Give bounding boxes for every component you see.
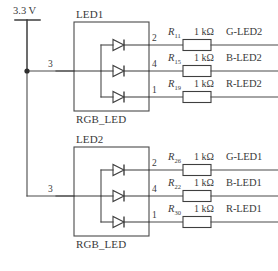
resistor-r15-subscript: 15 — [175, 58, 181, 65]
resistor-r26-value: 1 kΩ — [194, 152, 214, 162]
led1-pin-label-red: 1 — [152, 86, 157, 96]
led2-outline — [74, 147, 149, 236]
led1-device-label: RGB_LED — [76, 114, 126, 125]
resistor-r30-letter: R — [168, 203, 174, 214]
resistor-r26-label: R26 — [168, 152, 181, 163]
led1-outline — [74, 22, 149, 111]
led1-pin-label-green: 2 — [152, 34, 157, 44]
resistor-r11-value: 1 kΩ — [194, 27, 214, 37]
net-label-b-led2: B-LED2 — [226, 53, 262, 64]
resistor-r15-body — [183, 66, 211, 77]
resistor-r19-value: 1 kΩ — [194, 79, 214, 89]
led2-pin-label-blue: 4 — [152, 185, 157, 195]
resistor-r30-body — [183, 217, 211, 228]
schematic-canvas — [0, 0, 278, 271]
led2-common-pin-label: 3 — [48, 185, 53, 195]
led2-diode-green — [101, 165, 149, 176]
net-label-r-led2: R-LED2 — [226, 79, 262, 90]
resistor-r11-letter: R — [168, 26, 174, 37]
resistor-r15-label: R15 — [168, 53, 181, 64]
led1-resistors — [183, 40, 278, 103]
resistor-r30-label: R30 — [168, 204, 181, 215]
resistor-r26-subscript: 26 — [175, 157, 181, 164]
led2-diode-red — [101, 217, 149, 228]
led2-pin-label-green: 2 — [152, 159, 157, 169]
led2-resistors — [183, 165, 278, 228]
circuit-diagram: 3.3 V LED1 RGB_LED 3 2 4 1 R11 R15 R19 1… — [0, 0, 278, 271]
resistor-r15-value: 1 kΩ — [194, 53, 214, 63]
resistor-r30-subscript: 30 — [175, 209, 181, 216]
led1-common-pin-label: 3 — [48, 60, 53, 70]
resistor-r19-letter: R — [168, 78, 174, 89]
resistor-r19-label: R19 — [168, 79, 181, 90]
led1-diode-red — [101, 92, 149, 103]
led2-device-label: RGB_LED — [76, 239, 126, 250]
net-label-b-led1: B-LED1 — [226, 178, 262, 189]
resistor-r11-subscript: 11 — [175, 32, 181, 39]
resistor-r22-value: 1 kΩ — [194, 178, 214, 188]
resistor-r11-label: R11 — [168, 27, 180, 38]
net-label-g-led2: G-LED2 — [226, 27, 262, 38]
resistor-r15-letter: R — [168, 52, 174, 63]
led1-ref-label: LED1 — [76, 9, 103, 20]
resistor-r22-label: R22 — [168, 178, 181, 189]
resistor-r19-subscript: 19 — [175, 84, 181, 91]
led2-pin-label-red: 1 — [152, 211, 157, 221]
resistor-r30-value: 1 kΩ — [194, 204, 214, 214]
led1-pin-label-blue: 4 — [152, 60, 157, 70]
led2-block — [56, 147, 183, 236]
net-label-g-led1: G-LED1 — [226, 152, 262, 163]
resistor-r22-body — [183, 191, 211, 202]
supply-junction-dot — [24, 68, 29, 73]
supply-bus-wire — [24, 68, 74, 196]
supply-rail-symbol — [15, 20, 40, 71]
led1-diode-blue — [101, 66, 149, 77]
led2-diode-blue — [101, 191, 149, 202]
led1-diode-green — [101, 40, 149, 51]
supply-voltage-label: 3.3 V — [13, 6, 36, 17]
resistor-r22-letter: R — [168, 177, 174, 188]
net-label-r-led1: R-LED1 — [226, 204, 262, 215]
led2-ref-label: LED2 — [76, 134, 103, 145]
resistor-r26-body — [183, 165, 211, 176]
resistor-r26-letter: R — [168, 151, 174, 162]
resistor-r22-subscript: 22 — [175, 183, 181, 190]
resistor-r11-body — [183, 40, 211, 51]
led1-block — [56, 22, 183, 111]
resistor-r19-body — [183, 92, 211, 103]
